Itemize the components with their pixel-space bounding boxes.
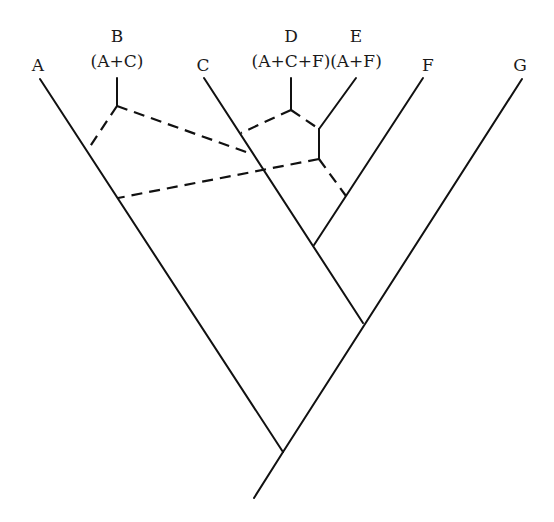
E-to-F-edge [319,159,346,196]
taxon-sublabel-E: (A+F) [330,51,382,71]
hybrid-edges [87,106,346,198]
branch-E-tip-edge [319,78,356,129]
tree-branches [40,78,522,498]
D-to-E-edge [291,110,319,129]
D-to-C-edge [241,110,291,133]
phylogenetic-network-diagram: A B (A+C) C D (A+C+F) E (A+F) F G [0,0,554,522]
taxon-label-B: B [111,26,124,46]
root-stem-edge [254,452,283,498]
taxon-label-D: D [284,26,298,46]
taxon-label-G: G [513,55,527,75]
taxon-label-F: F [422,55,434,75]
taxon-label-A: A [31,55,45,75]
E-to-A-edge [118,159,319,198]
taxon-sublabel-B: (A+C) [91,51,144,71]
B-to-A-edge [87,106,117,151]
branch-C-edge [204,78,363,323]
branch-A-edge [40,79,283,452]
B-to-C-edge [117,106,249,153]
taxon-label-C: C [196,55,209,75]
taxon-sublabel-D: (A+C+F) [252,51,331,71]
taxon-labels: A B (A+C) C D (A+C+F) E (A+F) F G [31,26,527,75]
taxon-label-E: E [350,26,362,46]
branch-F-edge [314,78,423,245]
